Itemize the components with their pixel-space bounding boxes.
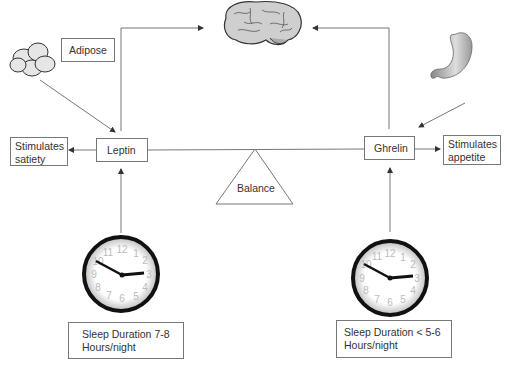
svg-text:7: 7 [106,290,112,301]
leptin-text: Leptin [107,144,147,157]
balance-text: Balance [237,182,275,194]
sleep-right-line1: Sleep Duration < 5-6 [344,326,451,339]
clock-icon: 1212 345 678 91011 [84,237,158,311]
sleep-duration-normal: Sleep Duration 7-8 Hours/night [68,322,184,359]
satiety-line2: satiety [15,153,67,166]
svg-text:5: 5 [133,291,139,302]
svg-text:11: 11 [372,251,383,262]
adipose-text: Adipose [69,44,114,57]
adipose-cells-icon [10,43,55,76]
sleep-left-line1: Sleep Duration 7-8 [82,328,183,341]
appetite-line1: Stimulates [448,138,500,151]
sleep-right-line2: Hours/night [344,339,451,352]
svg-text:11: 11 [103,247,114,258]
leptin-node: Leptin [96,138,148,162]
ghrelin-text: Ghrelin [374,142,414,155]
svg-text:6: 6 [119,293,125,304]
svg-text:4: 4 [410,285,416,296]
svg-text:9: 9 [91,269,97,280]
svg-text:1: 1 [400,252,406,263]
appetite-node: Stimulates appetite [443,135,501,165]
ghrelin-node: Ghrelin [364,136,415,160]
satiety-line1: Stimulates [15,140,67,153]
svg-text:1: 1 [133,248,139,259]
sleep-duration-short: Sleep Duration < 5-6 Hours/night [336,320,452,358]
svg-text:2: 2 [410,259,416,270]
svg-text:5: 5 [400,294,406,305]
svg-text:8: 8 [363,285,369,296]
balance-fulcrum [216,149,293,204]
svg-text:4: 4 [142,282,148,293]
appetite-line2: appetite [448,151,500,164]
svg-text:3: 3 [414,273,420,284]
svg-text:7: 7 [374,294,380,305]
svg-text:12: 12 [384,248,396,259]
satiety-node: Stimulates satiety [10,137,68,166]
svg-text:8: 8 [95,282,101,293]
sleep-left-line2: Hours/night [82,341,183,354]
stomach-icon [431,33,472,79]
svg-text:2: 2 [142,255,148,266]
svg-text:3: 3 [146,269,152,280]
adipose-label: Adipose [61,38,115,62]
clock-icon: 1212 345 678 91011 [353,241,427,315]
balance-label: Balance [236,182,276,194]
svg-text:12: 12 [116,244,128,255]
brain-icon [224,2,301,45]
svg-text:6: 6 [387,297,393,308]
svg-text:9: 9 [359,273,365,284]
